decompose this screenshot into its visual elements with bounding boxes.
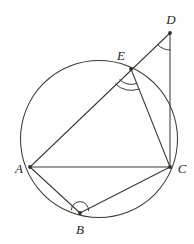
vertex-dot-a: [28, 165, 32, 169]
angle-arc-at-d: [158, 45, 170, 50]
angle-arc-at-b: [71, 202, 88, 211]
vertex-dot-b: [78, 211, 82, 215]
geometry-figure: A B C D E: [0, 0, 194, 244]
vertex-label-d: D: [165, 12, 176, 27]
circumscribed-circle: [21, 61, 178, 218]
vertex-label-a: A: [14, 161, 23, 176]
angle-arc-at-e-inner: [120, 80, 137, 85]
vertex-label-c: C: [178, 161, 187, 176]
segment-b-to-c: [80, 167, 170, 213]
vertex-label-e: E: [116, 48, 125, 63]
angle-arc-at-e-outer: [116, 84, 139, 91]
segment-a-to-d: [30, 33, 170, 167]
vertex-dot-c: [168, 165, 172, 169]
vertex-dot-e: [129, 67, 133, 71]
vertex-dot-d: [168, 31, 172, 35]
geometry-canvas: A B C D E: [0, 0, 194, 244]
vertex-label-b: B: [76, 222, 84, 237]
